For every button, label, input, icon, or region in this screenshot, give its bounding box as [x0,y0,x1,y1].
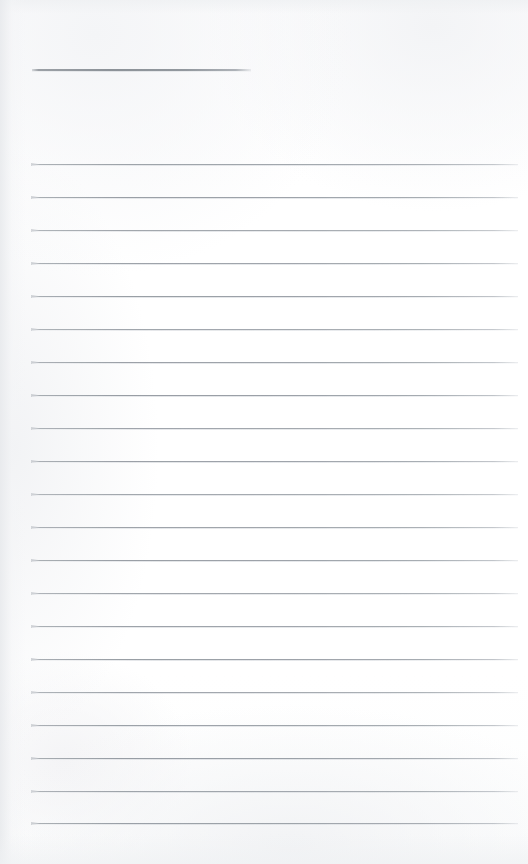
scan-edge-bottom [0,834,528,864]
ruled-line [32,659,518,660]
note-page [0,0,528,864]
ruled-line [32,329,518,330]
ruled-line [32,823,518,824]
ruled-line [32,527,518,528]
ruled-line [32,791,518,792]
ruled-line [32,560,518,561]
scan-edge-top [0,0,528,14]
ruled-line [32,428,518,429]
ruled-line [32,230,518,231]
ruled-line [32,692,518,693]
ruled-line [32,164,518,165]
ruled-line [32,296,518,297]
ruled-line [32,395,518,396]
heading-rule [32,69,251,71]
ruled-line [32,461,518,462]
ruled-line [32,494,518,495]
ruled-line [32,593,518,594]
ruled-line [32,725,518,726]
scan-edge-left [0,0,26,864]
ruled-line [32,197,518,198]
ruled-line [32,626,518,627]
ruled-line [32,362,518,363]
ruled-line [32,263,518,264]
ruled-line [32,758,518,759]
